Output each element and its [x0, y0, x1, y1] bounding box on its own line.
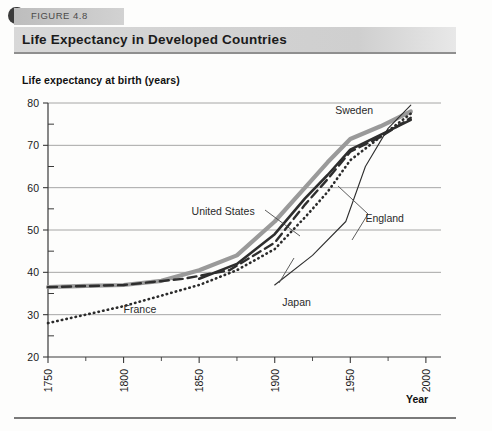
svg-text:40: 40 — [27, 266, 39, 278]
annotation-japan: Japan — [282, 296, 311, 308]
annotation-france: France — [124, 303, 157, 315]
y-tick-labels: 20304050607080 — [27, 97, 39, 363]
footer-divider — [14, 417, 456, 419]
svg-text:30: 30 — [27, 309, 39, 321]
svg-text:60: 60 — [27, 182, 39, 194]
annotation-united-states: United States — [192, 205, 255, 217]
svg-text:80: 80 — [27, 97, 39, 109]
line-chart-svg: 20304050607080 175018001850190019502000 … — [0, 0, 492, 431]
annotation-england: England — [365, 212, 404, 224]
svg-text:20: 20 — [27, 351, 39, 363]
figure-page: FIGURE 4.8 Life Expectancy in Developed … — [0, 0, 492, 431]
svg-text:2000: 2000 — [420, 369, 432, 393]
svg-text:1750: 1750 — [42, 369, 54, 393]
series-line-sweden — [48, 112, 411, 288]
svg-text:1950: 1950 — [344, 369, 356, 393]
series-line-england — [48, 118, 411, 287]
svg-text:1900: 1900 — [269, 369, 281, 393]
chart-plot-area: 20304050607080 175018001850190019502000 … — [0, 0, 492, 431]
svg-text:70: 70 — [27, 139, 39, 151]
svg-text:1800: 1800 — [118, 369, 130, 393]
annotation-sweden: Sweden — [335, 104, 373, 116]
x-tick-labels: 175018001850190019502000 — [42, 369, 432, 393]
svg-text:50: 50 — [27, 224, 39, 236]
svg-text:1850: 1850 — [193, 369, 205, 393]
